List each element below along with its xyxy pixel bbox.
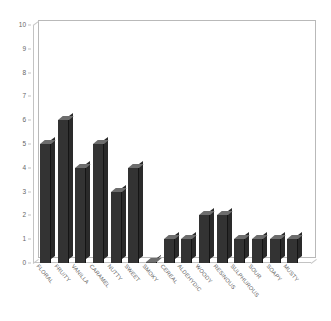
bar-front-face [270, 239, 281, 263]
bar-front-face [252, 239, 263, 263]
bar [58, 120, 69, 263]
bar [75, 168, 86, 263]
bar [181, 239, 192, 263]
y-axis-tick-label: 9 [2, 46, 26, 53]
bar-front-face [111, 192, 122, 263]
bar [40, 144, 51, 263]
y-axis-tick-label: 4 [2, 165, 26, 172]
bar-front-face [58, 120, 69, 263]
x-axis-label: WOODY [194, 263, 213, 284]
y-axis-tick-mark [28, 48, 31, 49]
bar-front-face [93, 144, 104, 263]
bar-side-face [210, 208, 214, 259]
bar-front-face [199, 215, 210, 263]
y-axis-tick-label: 10 [2, 22, 26, 29]
bar-top-face [146, 258, 162, 262]
bar [93, 144, 104, 263]
bars-layer [33, 20, 316, 263]
bar-side-face [69, 113, 73, 259]
x-axis-label: NUTTY [106, 263, 123, 282]
bar-side-face [86, 161, 90, 259]
y-axis-tick-label: 5 [2, 141, 26, 148]
y-axis-tick-mark [28, 25, 31, 26]
y-axis-tick-label: 7 [2, 93, 26, 100]
bar-side-face [122, 185, 126, 259]
bar [128, 168, 139, 263]
bar-front-face [287, 239, 298, 263]
bar-chart: 012345678910 FLORALFRUITYVANILLACARAMELN… [0, 0, 331, 321]
y-axis-tick-label: 8 [2, 69, 26, 76]
y-axis-tick-mark [28, 144, 31, 145]
y-axis-tick-mark [28, 96, 31, 97]
bar-side-face [228, 208, 232, 259]
y-axis-tick-label: 0 [2, 260, 26, 267]
x-axis-label: SOUR [247, 263, 263, 280]
x-axis-label: FRUITY [53, 263, 71, 283]
bar-side-face [139, 161, 143, 259]
bar-front-face [181, 239, 192, 263]
y-axis-tick-mark [28, 239, 31, 240]
bar [164, 239, 175, 263]
x-axis-label: SOAPY [265, 263, 283, 282]
y-axis-tick-mark [28, 215, 31, 216]
y-axis-tick-label: 1 [2, 236, 26, 243]
bar-side-face [51, 137, 55, 259]
y-axis: 012345678910 [0, 20, 31, 263]
y-axis-tick-mark [28, 191, 31, 192]
x-axis-label: SMOKY [141, 263, 159, 283]
bar-front-face [217, 215, 228, 263]
x-axis-label: FLORAL [35, 263, 54, 284]
bar [287, 239, 298, 263]
x-axis-label: SWEET [124, 263, 142, 283]
bar [252, 239, 263, 263]
bar [270, 239, 281, 263]
bar-side-face [104, 137, 108, 259]
bar-front-face [234, 239, 245, 263]
bar-front-face [164, 239, 175, 263]
bar-front-face [40, 144, 51, 263]
y-axis-tick-label: 6 [2, 117, 26, 124]
y-axis-tick-mark [28, 167, 31, 168]
bar [111, 192, 122, 263]
x-axis-label: MUSTY [283, 263, 301, 283]
y-axis-tick-label: 3 [2, 188, 26, 195]
bar-front-face [128, 168, 139, 263]
y-axis-tick-mark [28, 263, 31, 264]
bar [199, 215, 210, 263]
y-axis-tick-mark [28, 120, 31, 121]
y-axis-tick-mark [28, 72, 31, 73]
y-axis-tick-label: 2 [2, 212, 26, 219]
x-axis-labels: FLORALFRUITYVANILLACARAMELNUTTYSWEETSMOK… [33, 263, 323, 321]
bar [217, 215, 228, 263]
bar-front-face [75, 168, 86, 263]
bar [234, 239, 245, 263]
